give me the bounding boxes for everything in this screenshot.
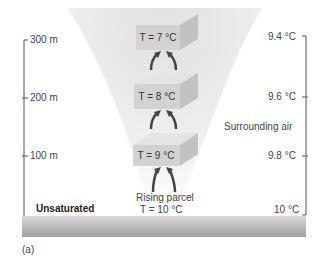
altitude-200-label: 200 m xyxy=(30,92,58,103)
surrounding-air-label: Surrounding air xyxy=(224,121,292,132)
altitude-axis xyxy=(22,40,28,216)
air-temp-200: 9.6 °C xyxy=(268,91,296,102)
unsaturated-label: Unsaturated xyxy=(36,203,94,214)
air-temp-100: 9.8 °C xyxy=(268,150,296,161)
altitude-100-label: 100 m xyxy=(30,150,58,161)
parcel-temp-300: T = 7 °C xyxy=(133,32,183,43)
parcel-temp-200: T = 8 °C xyxy=(132,91,182,102)
temperature-axis xyxy=(302,36,308,215)
parcel-base-temp: T = 10 °C xyxy=(140,204,182,215)
air-temp-300: 9.4 °C xyxy=(268,31,296,42)
rising-parcel-label: Rising parcel xyxy=(136,192,194,203)
ground xyxy=(22,216,306,237)
altitude-300-label: 300 m xyxy=(30,34,58,45)
parcel-temp-100: T = 9 °C xyxy=(131,150,181,161)
air-temp-ground: 10 °C xyxy=(274,204,299,215)
panel-label: (a) xyxy=(22,244,34,255)
